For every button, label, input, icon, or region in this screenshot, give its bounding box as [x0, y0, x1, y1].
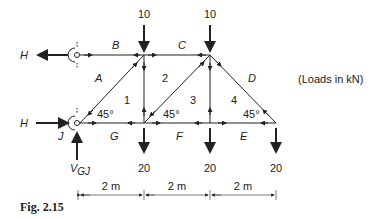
dimension-2: 2 m — [168, 180, 186, 192]
zone-D: D — [248, 72, 256, 84]
zone-B: B — [112, 39, 119, 51]
panel-4: 4 — [231, 94, 237, 106]
truss-diagram: 10 10 20 20 20 H H VGJ B C A D E F G J 1… — [0, 0, 374, 219]
zone-G: G — [110, 130, 119, 142]
figure-caption: Fig. 2.15 — [20, 200, 64, 214]
load-top-right-label: 10 — [204, 8, 216, 20]
dimension-1: 2 m — [102, 180, 120, 192]
angle-right: 45° — [243, 108, 260, 120]
zone-J: J — [57, 130, 64, 142]
panel-2: 2 — [162, 72, 168, 84]
reaction-h-top-label: H — [20, 49, 28, 61]
panel-3: 3 — [190, 94, 196, 106]
reaction-v-label: VGJ — [70, 162, 91, 177]
load-bottom-2-label: 20 — [204, 162, 216, 174]
load-bottom-3-label: 20 — [270, 162, 282, 174]
load-top-left-label: 10 — [138, 8, 150, 20]
units-note: (Loads in kN) — [298, 73, 363, 85]
zone-F: F — [176, 130, 184, 142]
pin-support-top — [68, 42, 80, 69]
reaction-h-bottom-label: H — [20, 117, 28, 129]
reaction-arrows — [36, 55, 77, 160]
dimension-3: 2 m — [234, 180, 252, 192]
zone-A: A — [94, 72, 102, 84]
panel-1: 1 — [124, 94, 130, 106]
angle-left: 45° — [97, 108, 114, 120]
zone-E: E — [240, 130, 248, 142]
zone-C: C — [178, 39, 186, 51]
angle-middle: 45° — [163, 108, 180, 120]
pin-support-bottom — [68, 108, 80, 130]
load-bottom-1-label: 20 — [138, 162, 150, 174]
